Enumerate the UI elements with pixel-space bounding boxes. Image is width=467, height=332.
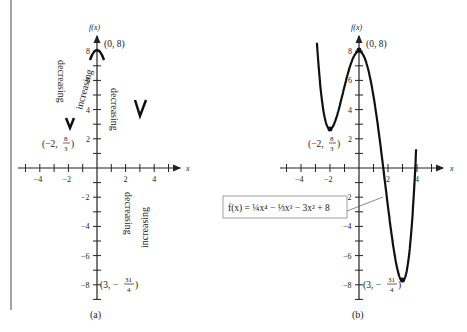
svg-text:8: 8 xyxy=(64,135,68,143)
svg-text:8: 8 xyxy=(348,47,352,56)
panel-b: −4−2248642−2−4−6−8 f(x) x (0, 8) (−2, 8 … xyxy=(223,23,454,321)
svg-text:31: 31 xyxy=(125,276,133,284)
x-axis-label: x xyxy=(185,164,190,173)
label-decreasing-1: decreasing xyxy=(56,60,67,103)
svg-text:4: 4 xyxy=(152,175,156,184)
svg-text:): ) xyxy=(398,280,401,291)
svg-text:4: 4 xyxy=(127,286,131,294)
figure: −4−2248642−2−4−6−8 f(x) x (0, 8) (−2, 8 … xyxy=(0,0,467,332)
svg-text:4: 4 xyxy=(348,106,352,115)
svg-text:6: 6 xyxy=(348,76,352,85)
left-min-label: (−2, xyxy=(42,139,58,150)
right-min-label: (3, − xyxy=(100,280,118,291)
svg-text:4: 4 xyxy=(86,106,90,115)
svg-text:−8: −8 xyxy=(343,281,352,290)
label-increasing-1: increasing xyxy=(73,68,94,111)
svg-text:−4: −4 xyxy=(34,175,43,184)
max-point xyxy=(357,48,362,53)
svg-text:8: 8 xyxy=(330,135,334,143)
label-increasing-2: increasing xyxy=(139,207,150,248)
svg-text:2: 2 xyxy=(124,175,128,184)
svg-text:2: 2 xyxy=(86,135,90,144)
svg-text:2: 2 xyxy=(348,135,352,144)
svg-text:3: 3 xyxy=(330,145,334,153)
right-min-arc xyxy=(135,100,146,116)
svg-text:8: 8 xyxy=(86,47,90,56)
panel-a-caption: (a) xyxy=(90,309,101,321)
right-min-label: (3, − xyxy=(363,280,381,291)
label-decreasing-2: decreasing xyxy=(109,88,120,131)
panel-b-caption: (b) xyxy=(352,309,364,321)
x-axis-label: x xyxy=(449,164,454,173)
label-decreasing-3: decreasing xyxy=(123,192,134,235)
panel-a: −4−2248642−2−4−6−8 f(x) x (0, 8) (−2, 8 … xyxy=(18,23,190,321)
svg-text:): ) xyxy=(135,280,138,291)
svg-text:−2: −2 xyxy=(81,193,90,202)
svg-text:31: 31 xyxy=(388,276,396,284)
function-curve xyxy=(317,43,416,281)
svg-text:3: 3 xyxy=(64,145,68,153)
y-axis-label: f(x) xyxy=(351,23,362,32)
max-point-label: (0, 8) xyxy=(366,39,387,50)
left-min-point xyxy=(328,127,333,132)
svg-text:4: 4 xyxy=(390,286,394,294)
svg-text:−4: −4 xyxy=(343,222,352,231)
left-min-label: (−2, xyxy=(308,139,324,150)
svg-text:−6: −6 xyxy=(343,252,352,261)
svg-text:): ) xyxy=(337,139,340,150)
svg-text:2: 2 xyxy=(386,175,390,184)
left-min-arc xyxy=(66,118,74,128)
svg-text:−4: −4 xyxy=(295,175,304,184)
formula-leader-line xyxy=(347,197,383,211)
svg-text:−4: −4 xyxy=(81,222,90,231)
formula-label: f(x) = ¼x⁴ − ⅓x³ − 3x² + 8 xyxy=(228,203,330,214)
y-axis-label: f(x) xyxy=(89,23,100,32)
svg-text:−2: −2 xyxy=(62,175,71,184)
svg-text:−2: −2 xyxy=(324,175,333,184)
svg-text:−8: −8 xyxy=(81,281,90,290)
svg-text:): ) xyxy=(71,139,74,150)
max-point-label: (0, 8) xyxy=(104,39,125,50)
svg-text:−6: −6 xyxy=(81,252,90,261)
